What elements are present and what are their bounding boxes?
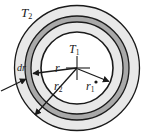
label-r2: r2 (54, 80, 62, 92)
label-T2: T2 (21, 6, 32, 19)
label-dr: dr (17, 63, 26, 73)
label-r1: r1 (86, 80, 94, 92)
label-r: r (55, 62, 60, 74)
r1-dot-marker (94, 80, 97, 83)
label-T1: T1 (69, 43, 79, 55)
